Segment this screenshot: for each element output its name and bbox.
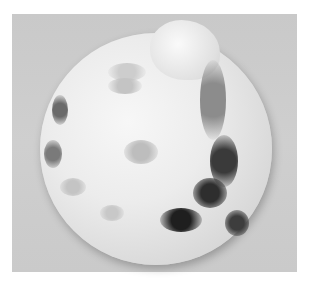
mold-spot: [160, 208, 202, 232]
mold-spot: [124, 140, 158, 164]
mold-spot: [52, 95, 68, 125]
mold-spot: [225, 210, 249, 236]
mold-spot: [44, 140, 62, 168]
mold-spot: [210, 135, 238, 187]
mold-spot: [200, 60, 226, 140]
mold-spot: [108, 78, 142, 94]
mold-spot: [60, 178, 86, 196]
mold-spot: [100, 205, 124, 221]
